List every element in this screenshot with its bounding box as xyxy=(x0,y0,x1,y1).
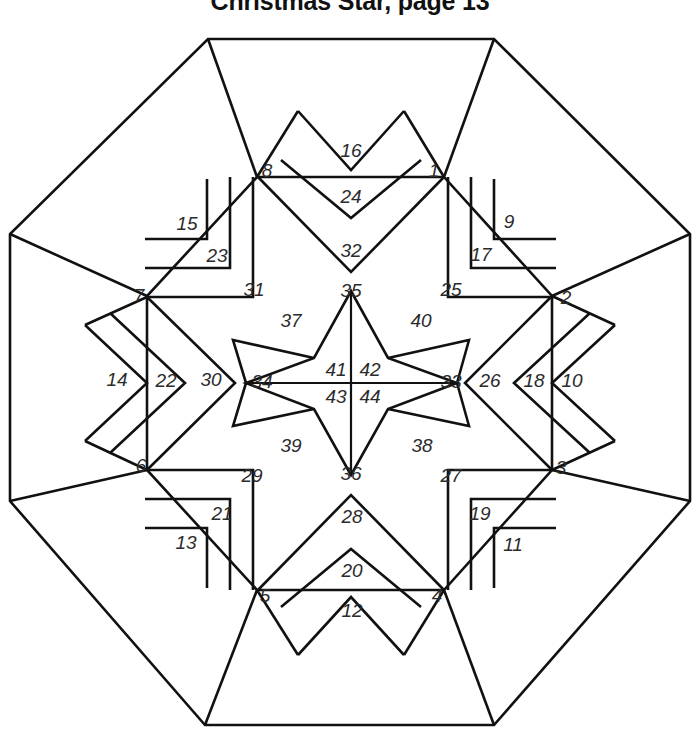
divider-top-left xyxy=(208,39,257,177)
piece-number-9: 9 xyxy=(504,211,515,232)
piece-number-33: 33 xyxy=(440,371,462,392)
piece-number-5: 5 xyxy=(260,585,271,606)
piece-number-15: 15 xyxy=(176,213,198,234)
piece-number-24: 24 xyxy=(339,186,361,207)
piece-number-44: 44 xyxy=(359,386,380,407)
divider-left-bot xyxy=(10,470,147,501)
piece-number-13: 13 xyxy=(175,532,197,553)
piece-number-6: 6 xyxy=(136,455,147,476)
piece-number-38: 38 xyxy=(411,435,433,456)
piece-number-19: 19 xyxy=(469,503,491,524)
piece-number-18: 18 xyxy=(523,370,545,391)
piece-number-10: 10 xyxy=(561,370,583,391)
piece-number-39: 39 xyxy=(280,435,302,456)
piece-number-30: 30 xyxy=(200,369,222,390)
piece-number-26: 26 xyxy=(478,370,501,391)
piece-number-27: 27 xyxy=(439,465,463,486)
corner-block-bottom-right xyxy=(448,470,556,590)
piece-number-36: 36 xyxy=(340,463,362,484)
corner-block-bottom-left xyxy=(145,470,253,590)
piece-number-14: 14 xyxy=(106,369,127,390)
piece-number-42: 42 xyxy=(359,359,381,380)
piece-number-8: 8 xyxy=(262,160,273,181)
piece-number-12: 12 xyxy=(341,600,363,621)
piece-number-20: 20 xyxy=(340,560,363,581)
divider-right-top xyxy=(552,234,690,296)
piece-number-3: 3 xyxy=(556,457,567,478)
piece-number-34: 34 xyxy=(251,371,272,392)
piece-number-16: 16 xyxy=(340,140,362,161)
piece-number-37: 37 xyxy=(280,310,303,331)
piece-number-1: 1 xyxy=(429,160,440,181)
piece-number-4: 4 xyxy=(432,585,443,606)
pattern-page: Christmas Star, page 13 xyxy=(0,0,700,735)
piece-number-7: 7 xyxy=(134,285,146,306)
piece-number-17: 17 xyxy=(470,244,493,265)
divider-bottom-right xyxy=(444,590,494,725)
divider-left-top xyxy=(10,234,147,296)
corner-block-top-right xyxy=(448,177,556,297)
quilt-pattern-diagram: 1 2 3 4 5 6 7 8 9 10 11 12 13 14 15 16 1… xyxy=(0,0,700,735)
divider-right-bot xyxy=(552,470,690,501)
divider-bottom-left xyxy=(205,590,257,725)
piece-number-22: 22 xyxy=(154,370,177,391)
piece-number-31: 31 xyxy=(243,279,264,300)
piece-number-35: 35 xyxy=(340,280,362,301)
divider-top-right xyxy=(444,39,494,177)
piece-number-2: 2 xyxy=(560,287,572,308)
piece-number-43: 43 xyxy=(325,386,347,407)
piece-number-41: 41 xyxy=(325,359,346,380)
piece-number-21: 21 xyxy=(210,503,232,524)
piece-number-32: 32 xyxy=(340,240,362,261)
piece-number-29: 29 xyxy=(240,465,263,486)
piece-outline-27 xyxy=(448,470,554,590)
piece-number-23: 23 xyxy=(205,245,228,266)
piece-number-40: 40 xyxy=(410,310,432,331)
piece-number-25: 25 xyxy=(439,279,462,300)
piece-number-28: 28 xyxy=(340,506,363,527)
piece-number-11: 11 xyxy=(503,534,523,555)
